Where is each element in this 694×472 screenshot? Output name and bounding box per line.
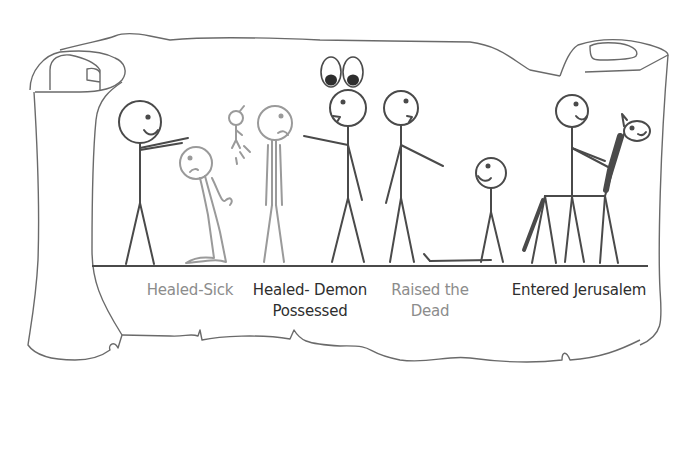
scroll-illustration [0,0,694,472]
label-raised-line2: Dead [380,301,480,322]
label-raised-line1: Raised the [380,280,480,301]
label-healed-demon-line2: Possessed [245,301,375,322]
googly-eyes [321,57,363,87]
label-entered-jerusalem: Entered Jerusalem [504,280,654,301]
jesus-figure-3 [384,91,443,262]
label-healed-sick: Healed-Sick [140,280,240,301]
jesus-figure-2 [304,90,366,262]
donkey-figure [524,114,650,263]
sick-person-figure [180,147,232,263]
child-figure [229,106,250,164]
label-raised-the-dead: Raised the Dead [380,280,480,322]
raised-person-figure [424,158,506,262]
demon-possessed-figure [258,106,292,262]
label-healed-demon-possessed: Healed- Demon Possessed [245,280,375,322]
jesus-figure-1 [119,101,188,264]
label-healed-demon-line1: Healed- Demon [245,280,375,301]
